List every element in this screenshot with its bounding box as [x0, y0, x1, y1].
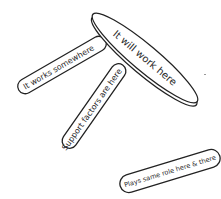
diagram-canvas: It works somewhere Support factors are h…: [0, 0, 221, 199]
speck-mark: [204, 74, 206, 75]
leg-label: It works somewhere: [22, 43, 96, 91]
note-plays-same-role: Plays same role here & there: [118, 147, 221, 195]
leg-label: Support factors are here: [60, 67, 124, 152]
leg-it-works-somewhere: It works somewhere: [15, 34, 109, 97]
stool-diagram: It works somewhere Support factors are h…: [0, 0, 221, 199]
leg-support-factors: Support factors are here: [58, 61, 129, 154]
